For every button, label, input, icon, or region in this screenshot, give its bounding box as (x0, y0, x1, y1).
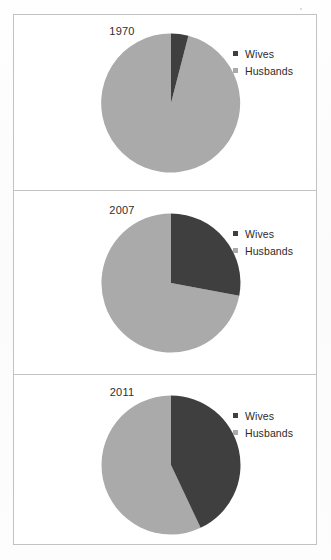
legend-2011: Wives Husbands (233, 407, 293, 441)
chart-panel-1970: 1970 Wives Husbands (14, 15, 316, 190)
legend-label-husbands: Husbands (245, 427, 293, 439)
legend-label-husbands: Husbands (245, 245, 293, 257)
chart-panel-2007: 2007 Wives Husbands (14, 190, 316, 374)
legend-label-wives: Wives (245, 228, 274, 240)
legend-swatch-wives-icon (233, 413, 238, 418)
legend-item-husbands: Husbands (233, 62, 293, 79)
legend-swatch-husbands-icon (233, 68, 238, 73)
pie-slice-wives-2007 (171, 214, 240, 296)
legend-swatch-wives-icon (233, 231, 238, 236)
legend-1970: Wives Husbands (233, 45, 293, 79)
legend-swatch-husbands-icon (233, 248, 238, 253)
legend-swatch-husbands-icon (233, 430, 238, 435)
legend-item-husbands: Husbands (233, 242, 293, 259)
legend-2007: Wives Husbands (233, 225, 293, 259)
pie-svg-1970 (101, 33, 241, 173)
legend-item-husbands: Husbands (233, 424, 293, 441)
chart-panel-2011: 2011 Wives Husbands (14, 374, 316, 544)
pie-chart-2007 (101, 213, 241, 353)
legend-item-wives: Wives (233, 407, 293, 424)
pie-slice-husbands-1970 (101, 33, 240, 172)
pie-chart-1970 (101, 33, 241, 173)
pie-svg-2011 (101, 395, 241, 535)
pie-svg-2007 (101, 213, 241, 353)
legend-item-wives: Wives (233, 225, 293, 242)
legend-label-husbands: Husbands (245, 65, 293, 77)
legend-label-wives: Wives (245, 410, 274, 422)
legend-item-wives: Wives (233, 45, 293, 62)
figure-frame: 1970 Wives Husbands 2007 (13, 14, 317, 545)
legend-label-wives: Wives (245, 48, 274, 60)
scan-speck (300, 8, 302, 10)
pie-chart-2011 (101, 395, 241, 535)
legend-swatch-wives-icon (233, 51, 238, 56)
